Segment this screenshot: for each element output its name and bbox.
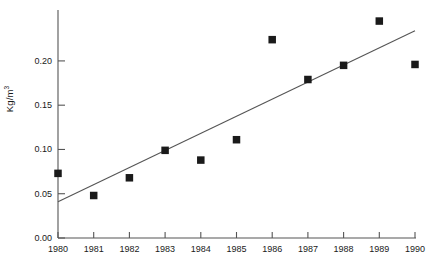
trend-line-segment (58, 31, 415, 202)
data-point-markers (54, 17, 419, 199)
x-axis-tick-label: 1980 (38, 243, 78, 255)
trend-line (58, 31, 415, 202)
data-point-marker (340, 62, 348, 70)
x-axis-tick-label: 1983 (145, 243, 185, 255)
data-point-marker (90, 192, 98, 200)
x-axis-tick-label: 1982 (109, 243, 149, 255)
data-point-marker (233, 136, 241, 144)
plot-area (0, 0, 430, 268)
x-axis-tick-label: 1989 (359, 243, 399, 255)
x-axis-tick-label: 1981 (74, 243, 114, 255)
x-axis-tick-label: 1984 (181, 243, 221, 255)
y-axis-ticks (58, 61, 65, 238)
data-point-marker (304, 76, 312, 84)
x-axis-tick-label: 1987 (288, 243, 328, 255)
data-point-marker (197, 156, 205, 164)
x-axis-ticks (58, 232, 415, 238)
x-axis-tick-label: 1986 (252, 243, 292, 255)
x-axis-tick-label: 1985 (217, 243, 257, 255)
x-axis-tick-label: 1988 (324, 243, 364, 255)
data-point-marker (126, 174, 133, 182)
chart-container: Kg/m3 0.000.050.100.150.20 1980198119821… (0, 0, 430, 268)
axes (58, 10, 416, 238)
x-axis-tick-label: 1990 (395, 243, 430, 255)
data-point-marker (161, 147, 169, 155)
x-axis-tick-labels: 1980198119821983198419851986198719881989… (0, 243, 430, 259)
data-point-marker (54, 170, 62, 178)
data-point-marker (376, 17, 384, 25)
data-point-marker (411, 61, 419, 69)
data-point-marker (268, 36, 276, 44)
